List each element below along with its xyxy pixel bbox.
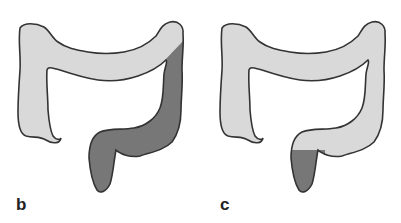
colon-diagram-c: [200, 0, 400, 223]
panel-b: b: [0, 0, 200, 223]
panel-label-c: c: [220, 196, 229, 213]
panel-c: c: [200, 0, 400, 223]
panel-label-b: b: [16, 196, 26, 213]
colon-diagram-b: [0, 0, 200, 223]
